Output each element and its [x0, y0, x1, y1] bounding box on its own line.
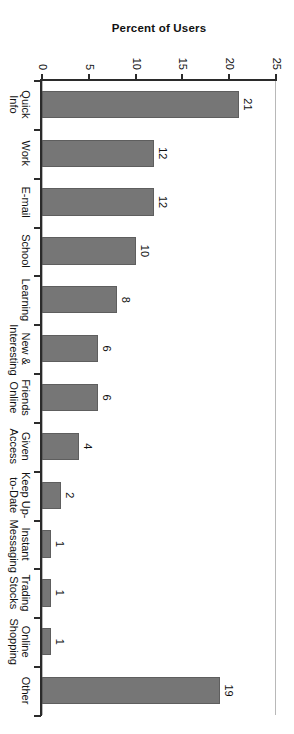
category-label: School [20, 227, 32, 276]
value-axis-tick-label: 0 [37, 44, 49, 70]
category-label: Keep Up- to-Date [8, 471, 32, 520]
bar [42, 628, 276, 655]
bar-rect [42, 677, 220, 704]
bar [42, 530, 276, 557]
value-axis-tick-label: 20 [224, 44, 236, 70]
bar-series [42, 80, 276, 715]
bar-rect [42, 579, 51, 606]
bar-rect [42, 91, 239, 118]
value-axis-tick-label: 15 [177, 44, 189, 70]
bar-value-label: 21 [242, 94, 254, 114]
bar [42, 482, 276, 509]
bar-value-label: 12 [157, 192, 169, 212]
category-label: Learning [20, 275, 32, 324]
bar [42, 433, 276, 460]
bar-rect [42, 628, 51, 655]
bar-rect [42, 237, 136, 264]
bar-rect [42, 335, 98, 362]
bar [42, 335, 276, 362]
bar-rect [42, 530, 51, 557]
category-label: Given Access [8, 422, 32, 471]
bar-value-label: 6 [101, 339, 113, 359]
scanned-chart-page: Percent of Users 0510152025 Quick InfoWo… [0, 0, 294, 734]
bar-value-label: 10 [139, 241, 151, 261]
bar-value-label: 6 [101, 388, 113, 408]
category-label: Friends Online [8, 373, 32, 422]
bar [42, 237, 276, 264]
bar-value-label: 8 [120, 290, 132, 310]
bar-value-label: 12 [157, 143, 169, 163]
bar-rect [42, 433, 79, 460]
bar [42, 286, 276, 313]
bar [42, 384, 276, 411]
bar-chart-figure: Percent of Users 0510152025 Quick InfoWo… [0, 0, 294, 734]
category-label: Other [20, 666, 32, 715]
category-label: Instant Messaging [8, 520, 32, 569]
bar-rect [42, 384, 98, 411]
bar-value-label: 2 [64, 485, 76, 505]
bar-value-label: 1 [54, 583, 66, 603]
value-axis-title: Percent of Users [42, 22, 276, 40]
bar-rect [42, 140, 154, 167]
bar-rect [42, 286, 117, 313]
bar-value-label: 4 [82, 436, 94, 456]
bar-value-label: 1 [54, 632, 66, 652]
rotated-chart-stage: Percent of Users 0510152025 Quick InfoWo… [0, 0, 294, 734]
category-label: Work [20, 129, 32, 178]
value-axis-tick-label: 5 [84, 44, 96, 70]
value-axis-line [40, 79, 276, 81]
value-axis-tick-label: 10 [131, 44, 143, 70]
category-axis-line [40, 80, 42, 716]
category-label: Trading Stocks [8, 568, 32, 617]
category-label: Online Shopping [8, 617, 32, 666]
value-axis-tick-label: 25 [271, 44, 283, 70]
bar-value-label: 19 [223, 681, 235, 701]
bar [42, 677, 276, 704]
category-label: Quick Info [8, 80, 32, 129]
category-label: New & Interesting [8, 324, 32, 373]
bar-rect [42, 482, 61, 509]
bar-rect [42, 188, 154, 215]
bar-value-label: 1 [54, 534, 66, 554]
bar [42, 579, 276, 606]
category-label: E-mail [20, 178, 32, 227]
